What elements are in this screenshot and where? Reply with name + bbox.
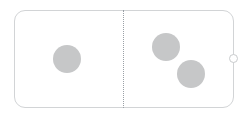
right-panel-count-label: 2: [0, 0, 1, 1]
circle-left[interactable]: [53, 45, 81, 73]
left-panel-count-label: 1: [0, 0, 1, 1]
shape-canvas[interactable]: 1 2 Shape canvas: [0, 0, 248, 119]
circle-right-lower[interactable]: [177, 60, 205, 88]
canvas-title: Shape canvas: [0, 0, 1, 1]
rounded-rectangle-container[interactable]: [14, 10, 234, 108]
resize-handle-right[interactable]: [229, 54, 238, 63]
vertical-dotted-divider: [123, 10, 124, 108]
circle-right-upper[interactable]: [152, 33, 180, 61]
